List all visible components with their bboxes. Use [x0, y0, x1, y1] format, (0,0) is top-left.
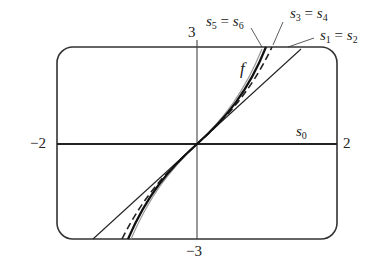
leader-s1-s2	[288, 38, 314, 47]
y-min-label: −3	[186, 244, 202, 259]
leader-s5-s6	[251, 28, 262, 47]
s5-s6-label: s5 = s6	[206, 14, 244, 31]
s0-label: s0	[296, 124, 307, 141]
leader-s3-s4	[273, 22, 283, 45]
x-min-label: −2	[30, 136, 46, 151]
s1-s2-label: s1 = s2	[320, 28, 358, 45]
x-max-label: 2	[343, 136, 351, 151]
f-label: f	[240, 60, 245, 77]
s3-s4-label: s3 = s4	[290, 6, 328, 23]
y-max-label: 3	[188, 25, 196, 40]
